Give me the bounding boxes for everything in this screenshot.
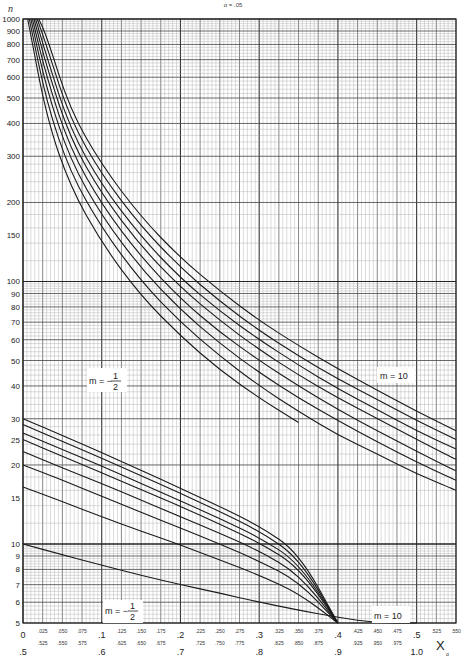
svg-text:1.0: 1.0 — [410, 647, 423, 657]
svg-text:.975: .975 — [392, 640, 402, 646]
svg-text:.925: .925 — [353, 640, 363, 646]
svg-text:.175: .175 — [156, 628, 166, 634]
grid — [23, 19, 456, 623]
svg-text:.675: .675 — [156, 640, 166, 646]
svg-text:.225: .225 — [195, 628, 205, 634]
chart: α = .05 n 567891015202530405060708090100… — [0, 0, 466, 661]
svg-text:900: 900 — [7, 27, 21, 36]
svg-text:.450: .450 — [372, 628, 382, 634]
svg-text:.750: .750 — [215, 640, 225, 646]
svg-text:.4: .4 — [334, 630, 342, 640]
svg-text:X: X — [436, 638, 445, 653]
svg-text:700: 700 — [7, 56, 21, 65]
svg-text:.550: .550 — [451, 628, 461, 634]
svg-text:.150: .150 — [136, 628, 146, 634]
svg-text:.350: .350 — [294, 628, 304, 634]
svg-text:.9: .9 — [334, 647, 342, 657]
svg-text:150: 150 — [7, 231, 21, 240]
svg-text:.5: .5 — [413, 630, 421, 640]
curve-m-1-2 — [28, 19, 299, 423]
svg-text:80: 80 — [11, 303, 20, 312]
svg-text:.025: .025 — [38, 628, 48, 634]
svg-text:.075: .075 — [77, 628, 87, 634]
chart-title: α = .05 — [224, 2, 243, 8]
svg-text:.3: .3 — [255, 630, 263, 640]
svg-text:6: 6 — [16, 598, 21, 607]
svg-text:.6: .6 — [98, 647, 106, 657]
svg-text:20: 20 — [11, 461, 20, 470]
svg-text:.650: .650 — [136, 640, 146, 646]
svg-text:10: 10 — [11, 540, 20, 549]
svg-text:.525: .525 — [431, 628, 441, 634]
svg-text:.325: .325 — [274, 628, 284, 634]
y-axis-label: n — [8, 3, 13, 14]
svg-text:.475: .475 — [392, 628, 402, 634]
svg-text:90: 90 — [11, 290, 20, 299]
svg-text:.575: .575 — [77, 640, 87, 646]
x-axis-ticks: 0.025.050.075.1.125.150.175.2.225.250.27… — [19, 628, 461, 657]
svg-text:.825: .825 — [274, 640, 284, 646]
svg-text:100: 100 — [7, 277, 21, 286]
m-label-upper-right: m = 10 — [377, 367, 415, 383]
svg-text:.425: .425 — [353, 628, 363, 634]
m-label-lower-right: m = 10 — [372, 606, 410, 623]
svg-text:9: 9 — [16, 552, 21, 561]
curve-m-1 — [32, 19, 456, 471]
svg-text:m = 10: m = 10 — [380, 371, 408, 381]
curve-m-0 — [29, 19, 456, 490]
svg-text:8: 8 — [16, 565, 21, 574]
svg-text:1: 1 — [113, 371, 118, 381]
m-label-lower-left: m = − 1 2 — [103, 600, 143, 623]
svg-text:.525: .525 — [38, 640, 48, 646]
svg-text:2: 2 — [130, 612, 135, 622]
svg-text:.050: .050 — [57, 628, 67, 634]
svg-text:30: 30 — [11, 415, 20, 424]
svg-text:500: 500 — [7, 94, 21, 103]
svg-text:m = 10: m = 10 — [374, 611, 402, 621]
svg-text:600: 600 — [7, 73, 21, 82]
svg-text:0: 0 — [20, 630, 25, 640]
svg-text:m = −: m = − — [89, 376, 112, 386]
svg-text:.550: .550 — [57, 640, 67, 646]
svg-text:.850: .850 — [294, 640, 304, 646]
x-axis-label: X α — [436, 638, 449, 657]
svg-text:.775: .775 — [235, 640, 245, 646]
svg-text:60: 60 — [11, 336, 20, 345]
svg-text:15: 15 — [11, 494, 20, 503]
svg-text:.1: .1 — [98, 630, 106, 640]
svg-text:.950: .950 — [372, 640, 382, 646]
svg-text:.5: .5 — [19, 647, 27, 657]
svg-text:.275: .275 — [235, 628, 245, 634]
svg-text:.625: .625 — [117, 640, 127, 646]
svg-text:7: 7 — [16, 581, 21, 590]
svg-text:.8: .8 — [255, 647, 263, 657]
m-label-upper-left: m = − 1 2 — [87, 368, 127, 392]
svg-text:5: 5 — [16, 619, 21, 628]
svg-text:2: 2 — [113, 382, 118, 392]
svg-text:200: 200 — [7, 198, 21, 207]
svg-text:50: 50 — [11, 357, 20, 366]
svg-text:.725: .725 — [195, 640, 205, 646]
svg-text:25: 25 — [11, 436, 20, 445]
svg-text:1000: 1000 — [2, 15, 20, 24]
svg-text:70: 70 — [11, 318, 20, 327]
svg-text:400: 400 — [7, 119, 21, 128]
svg-text:.2: .2 — [177, 630, 185, 640]
svg-text:300: 300 — [7, 152, 21, 161]
y-axis-ticks: 5678910152025304050607080901001502003004… — [2, 15, 20, 628]
svg-text:1: 1 — [130, 601, 135, 611]
svg-text:m = −: m = − — [105, 606, 128, 616]
svg-text:.375: .375 — [313, 628, 323, 634]
svg-text:40: 40 — [11, 382, 20, 391]
svg-text:800: 800 — [7, 40, 21, 49]
svg-text:.875: .875 — [313, 640, 323, 646]
svg-text:.125: .125 — [117, 628, 127, 634]
svg-text:.250: .250 — [215, 628, 225, 634]
svg-text:.7: .7 — [177, 647, 185, 657]
svg-text:α: α — [446, 651, 449, 657]
